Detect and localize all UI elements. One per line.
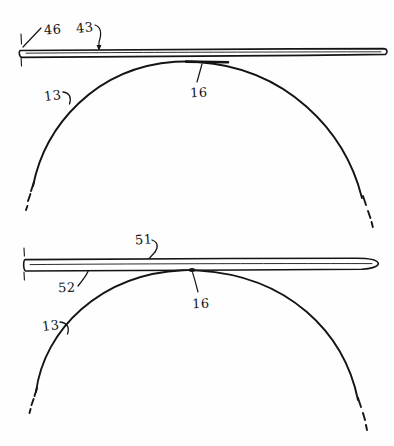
leader-13-upper [63,92,70,104]
arc-break-right-lower [358,398,367,430]
contact-point-16-lower [189,268,195,272]
lower-diagram [24,240,379,430]
reference-numeral-46: 46 [43,21,62,37]
left-edge-tick-upper [21,34,22,44]
reference-numeral-16-upper: 16 [190,85,208,101]
leader-43 [95,25,101,48]
leader-52 [78,272,88,286]
arc-break-right-upper [363,196,373,227]
drawing-page: 46 43 16 13 51 52 16 13 [0,0,394,446]
arc-break-left-upper [26,182,34,210]
arc-break-left-lower [30,388,38,413]
patent-drawing-canvas [0,0,394,446]
reference-numeral-52: 52 [58,280,76,296]
contact-segment-16-upper [186,62,228,63]
reference-numeral-16-lower: 16 [192,296,210,312]
leader-16-lower [193,273,198,292]
leader-46 [23,28,41,47]
reference-numeral-43: 43 [75,19,94,36]
reference-numeral-13-lower: 13 [41,317,60,334]
reference-numeral-13-upper: 13 [43,87,62,104]
reference-numeral-51: 51 [134,231,153,247]
upper-diagram [19,25,387,227]
leader-16-upper [197,64,202,82]
